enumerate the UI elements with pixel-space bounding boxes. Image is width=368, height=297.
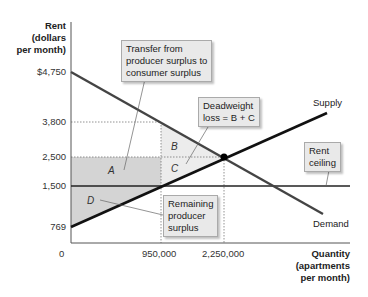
deadweight-callout: Deadweight loss = B + C <box>198 97 260 127</box>
region-c-label: C <box>171 163 178 174</box>
remaining-surplus-callout: Remaining producer surplus <box>163 195 218 237</box>
transfer-callout: Transfer from producer surplus to consum… <box>121 40 212 82</box>
y-tick-1500: 1,500 <box>16 180 66 191</box>
demand-label: Demand <box>313 218 349 229</box>
rent-ceiling-callout: Rent ceiling <box>304 142 341 172</box>
ceiling-line2: ceiling <box>309 157 336 169</box>
remaining-line3: surplus <box>168 222 213 234</box>
transfer-line2: producer surplus to <box>126 55 207 67</box>
y-tick-3800: 3,800 <box>16 116 66 127</box>
y-tick-769: 769 <box>16 221 66 232</box>
dwl-line2: loss = B + C <box>203 112 255 124</box>
y-tick-4750: $4,750 <box>16 66 66 77</box>
x-axis-title: Quantity (apartments per month) <box>290 248 350 284</box>
y-title-line2: (dollars <box>12 32 66 44</box>
remaining-line2: producer <box>168 210 213 222</box>
region-a-label: A <box>108 165 115 176</box>
dwl-line1: Deadweight <box>203 100 255 112</box>
y-tick-2500: 2,500 <box>16 151 66 162</box>
equilibrium-point <box>221 154 228 161</box>
region-a-shade <box>71 157 161 186</box>
transfer-line1: Transfer from <box>126 43 207 55</box>
remaining-line1: Remaining <box>168 198 213 210</box>
y-title-line3: per month) <box>12 44 66 56</box>
ceiling-line1: Rent <box>309 145 336 157</box>
x-tick-2250000: 2,250,000 <box>202 248 244 259</box>
x-title-line1: Quantity <box>290 248 350 260</box>
region-b-label: B <box>171 141 178 152</box>
transfer-line3: consumer surplus <box>126 67 207 79</box>
x-title-line2: (apartments <box>290 260 350 272</box>
x-tick-950000: 950,000 <box>142 248 176 259</box>
supply-label: Supply <box>313 97 342 108</box>
x-tick-0: 0 <box>59 248 64 259</box>
y-title-line1: Rent <box>12 20 66 32</box>
x-title-line3: per month) <box>290 272 350 284</box>
y-axis-title: Rent (dollars per month) <box>12 20 66 56</box>
region-d-label: D <box>87 195 94 206</box>
